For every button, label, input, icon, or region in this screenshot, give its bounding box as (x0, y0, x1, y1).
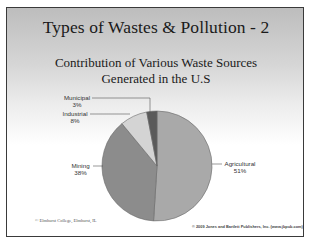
pie-chart (0, 0, 312, 244)
label-agricultural-name: Agricultural (222, 160, 258, 167)
label-agricultural-pct: 51% (222, 167, 258, 174)
label-mining: Mining 38% (68, 162, 93, 176)
label-mining-name: Mining (68, 162, 93, 169)
label-industrial-name: Industrial (60, 110, 90, 117)
label-municipal-pct: 3% (62, 101, 92, 108)
label-municipal: Municipal 3% (62, 94, 92, 108)
pie-slice-agricultural (154, 111, 212, 221)
label-mining-pct: 38% (68, 169, 93, 176)
label-agricultural: Agricultural 51% (222, 160, 258, 174)
footer-copyright-publisher: © 2009 Jones and Bartlett Publishers, In… (192, 224, 303, 229)
leader-line-municipal (92, 98, 150, 113)
label-industrial-pct: 8% (60, 117, 90, 124)
pie-slices (102, 111, 212, 221)
footer-copyright-college: © Elmhurst College, Elmhurst, IL (35, 218, 96, 223)
label-municipal-name: Municipal (62, 94, 92, 101)
label-industrial: Industrial 8% (60, 110, 90, 124)
